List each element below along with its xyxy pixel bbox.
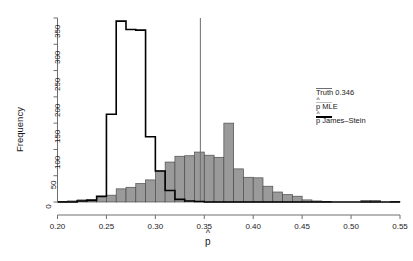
legend-label-truth: Truth 0.346 — [316, 88, 354, 97]
legend-label-james-stein: p James–Stein — [316, 116, 366, 125]
y-tick-label: 100 — [53, 156, 62, 169]
x-tick-label: 0.20 — [50, 222, 66, 231]
x-tick-label: 0.50 — [343, 222, 359, 231]
y-tick-label: 300 — [53, 51, 62, 64]
histogram-bar — [195, 152, 205, 202]
histogram-bar — [204, 155, 214, 202]
y-tick-label: 50 — [48, 180, 57, 189]
histogram-bar — [224, 123, 234, 202]
y-tick-label: 350 — [53, 25, 62, 38]
x-tick-label: 0.35 — [196, 222, 212, 231]
legend-js-phat: p — [316, 116, 320, 125]
histogram-bar — [116, 189, 126, 202]
histogram-bar — [97, 197, 107, 202]
mle-bars-group — [58, 123, 401, 202]
x-tick-label: 0.45 — [294, 222, 310, 231]
x-axis-label: p — [205, 236, 211, 247]
x-tick-label: 0.40 — [245, 222, 261, 231]
histogram-bar — [185, 156, 195, 202]
histogram-bar — [106, 195, 116, 202]
y-tick-label: 150 — [53, 130, 62, 143]
histogram-bar — [243, 177, 253, 202]
legend-item-truth: Truth 0.346 — [316, 88, 354, 97]
histogram-bar — [263, 186, 273, 202]
legend-js-suffix: James–Stein — [320, 116, 365, 125]
histogram-bar — [283, 195, 293, 202]
histogram-bar — [136, 184, 146, 202]
y-tick-label: 250 — [53, 77, 62, 90]
x-tick-label: 0.25 — [99, 222, 115, 231]
histogram-bar — [126, 187, 136, 202]
legend-mle-suffix: MLE — [320, 102, 338, 111]
histogram-bar — [253, 178, 263, 202]
x-tick-label: 0.30 — [148, 222, 164, 231]
histogram-bar — [175, 156, 185, 202]
histogram-bar — [155, 171, 165, 202]
histogram-bar — [273, 192, 283, 202]
histogram-bar — [165, 162, 175, 202]
y-tick-label: 200 — [53, 104, 62, 117]
x-tick-label: 0.55 — [392, 222, 408, 231]
p-hat-glyph: p — [205, 236, 211, 247]
histogram-bar — [234, 169, 244, 202]
histogram-figure: Frequency p Truth 0.346 p MLE p James–St… — [0, 0, 413, 261]
legend-item-james-stein: p James–Stein — [316, 116, 366, 125]
histogram-bar — [214, 157, 224, 202]
y-axis-label: Frequency — [14, 107, 25, 152]
histogram-bar — [292, 196, 302, 202]
histogram-bar — [146, 180, 156, 202]
y-tick-label: 0 — [44, 204, 53, 208]
